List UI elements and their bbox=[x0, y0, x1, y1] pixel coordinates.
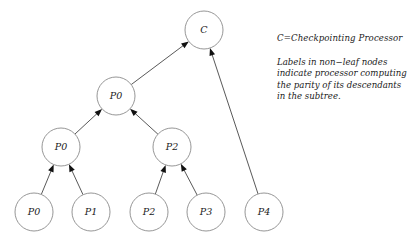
tree-node-leaf-p3[interactable]: P3 bbox=[187, 193, 225, 231]
edge-l-p0-to-mid-p0 bbox=[75, 109, 102, 134]
edge-line bbox=[134, 112, 158, 134]
legend-note-line: Labels in non−leaf nodes bbox=[277, 57, 407, 68]
edge-leaf-p0-to-l-p0 bbox=[41, 165, 53, 195]
tree-node-mid-p0[interactable]: P0 bbox=[97, 77, 135, 115]
node-label: P4 bbox=[257, 206, 270, 217]
tree-node-leaf-p2[interactable]: P2 bbox=[130, 193, 168, 231]
tree-node-leaf-p4[interactable]: P4 bbox=[245, 193, 283, 231]
legend-title: C=Checkpointing Processor bbox=[277, 33, 403, 43]
edge-leaf-p2-to-l-p2 bbox=[155, 165, 166, 194]
node-label: P2 bbox=[165, 141, 178, 152]
edge-line bbox=[75, 113, 98, 134]
edge-l-p2-to-mid-p0 bbox=[130, 109, 158, 134]
tree-node-c[interactable]: C bbox=[185, 11, 223, 49]
arrow-head-icon bbox=[69, 164, 75, 172]
node-label: P0 bbox=[27, 206, 40, 217]
edge-line bbox=[212, 53, 258, 194]
nodes-layer: CP0P0P2P0P1P2P3P4 bbox=[15, 11, 283, 231]
figure-canvas: CP0P0P2P0P1P2P3P4 C=Checkpointing Proces… bbox=[0, 0, 414, 241]
edge-leaf-p1-to-l-p0 bbox=[69, 164, 83, 194]
arrow-head-icon bbox=[181, 41, 189, 48]
edge-line bbox=[41, 170, 51, 195]
edge-line bbox=[71, 169, 83, 195]
arrow-head-icon bbox=[160, 165, 165, 173]
legend-note: Labels in non−leaf nodesindicate process… bbox=[277, 57, 407, 103]
edge-line bbox=[183, 169, 197, 196]
edge-mid-p0-to-c bbox=[131, 41, 189, 84]
legend-note-line: in the subtree. bbox=[277, 91, 407, 102]
edge-leaf-p3-to-l-p2 bbox=[181, 164, 197, 195]
tree-node-leaf-p1[interactable]: P1 bbox=[72, 193, 110, 231]
tree-node-leaf-p0[interactable]: P0 bbox=[15, 193, 53, 231]
tree-node-l-p2[interactable]: P2 bbox=[153, 128, 191, 166]
node-label: P2 bbox=[142, 206, 155, 217]
arrow-head-icon bbox=[210, 48, 216, 56]
node-label: P0 bbox=[109, 90, 122, 101]
arrow-head-icon bbox=[181, 164, 187, 172]
edge-line bbox=[131, 45, 184, 85]
node-label: P1 bbox=[84, 206, 97, 217]
legend-note-line: indicate processor computing bbox=[277, 68, 407, 79]
arrow-head-icon bbox=[48, 165, 54, 173]
node-label: P3 bbox=[199, 206, 212, 217]
node-label: P0 bbox=[54, 141, 67, 152]
edge-line bbox=[155, 170, 164, 194]
tree-node-l-p0[interactable]: P0 bbox=[42, 128, 80, 166]
edges-layer bbox=[41, 41, 258, 195]
legend-note-line: the parity of its descendants bbox=[277, 80, 407, 91]
node-label: C bbox=[200, 24, 208, 35]
edge-leaf-p4-to-c bbox=[210, 48, 259, 194]
